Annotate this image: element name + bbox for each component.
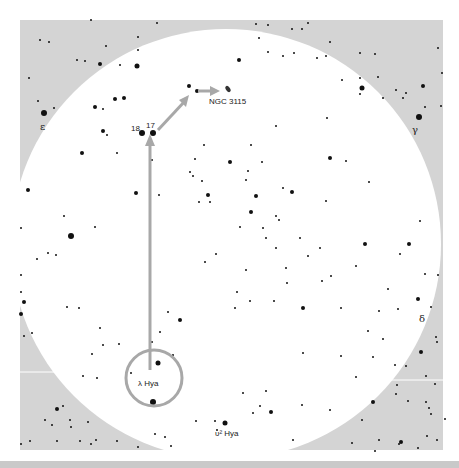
star <box>105 45 107 47</box>
star <box>340 355 342 357</box>
star <box>275 215 277 217</box>
star <box>417 447 419 449</box>
star <box>252 412 254 414</box>
star <box>301 306 305 310</box>
star <box>39 39 41 41</box>
star <box>329 41 331 43</box>
star <box>325 200 327 202</box>
star <box>426 435 428 437</box>
star <box>135 64 140 69</box>
star <box>170 445 172 447</box>
star <box>237 58 241 62</box>
star <box>316 57 318 59</box>
star <box>378 439 380 441</box>
star <box>319 247 321 249</box>
star <box>359 77 361 79</box>
star <box>387 288 389 290</box>
star <box>137 446 139 448</box>
star <box>302 352 304 354</box>
star <box>351 442 353 444</box>
star <box>47 252 49 254</box>
label-lambda-hya: λ Hya <box>138 379 159 388</box>
star <box>80 151 84 155</box>
star <box>371 400 375 404</box>
star <box>69 419 71 421</box>
star <box>101 129 105 133</box>
star <box>340 307 342 309</box>
star <box>55 254 57 256</box>
star <box>23 335 25 337</box>
star <box>363 242 367 246</box>
star <box>258 37 260 39</box>
star <box>359 93 361 95</box>
star <box>164 436 166 438</box>
star <box>328 156 332 160</box>
star <box>137 49 139 51</box>
star <box>421 84 425 88</box>
star <box>407 400 409 402</box>
star <box>285 267 287 269</box>
star <box>209 201 211 203</box>
star <box>267 24 269 26</box>
star <box>20 443 22 445</box>
star <box>299 237 301 239</box>
star <box>37 100 39 102</box>
star <box>436 439 438 441</box>
star <box>247 170 249 172</box>
star <box>377 76 379 78</box>
star <box>98 62 102 66</box>
star <box>440 105 442 107</box>
star <box>405 365 407 367</box>
star <box>189 171 191 173</box>
star <box>441 72 443 74</box>
star <box>399 440 403 444</box>
star <box>397 308 399 310</box>
label-star-17: 17 <box>146 121 155 130</box>
star <box>374 450 376 452</box>
star <box>394 364 396 366</box>
star <box>99 327 101 329</box>
star <box>150 399 156 405</box>
star <box>137 36 139 38</box>
star <box>203 144 205 146</box>
bottom-band <box>0 461 459 468</box>
star <box>130 372 132 374</box>
star <box>437 274 439 276</box>
star <box>156 361 161 366</box>
star <box>254 194 258 198</box>
star <box>259 405 261 407</box>
star <box>278 219 280 221</box>
star <box>355 265 357 267</box>
star-chart: NGC 3115 17 18 λ Hya υ² Hya ε γ δ <box>0 0 459 468</box>
star <box>249 210 253 214</box>
star <box>360 86 365 91</box>
star <box>250 144 252 146</box>
star <box>19 312 23 316</box>
star <box>90 443 92 445</box>
star <box>374 53 376 55</box>
star <box>122 96 126 100</box>
star <box>48 41 50 43</box>
star <box>255 23 257 25</box>
star <box>273 300 275 302</box>
star <box>382 338 384 340</box>
star <box>106 134 108 136</box>
star <box>150 130 156 136</box>
star <box>51 424 53 426</box>
star <box>94 226 96 228</box>
star <box>236 291 238 293</box>
star <box>178 318 182 322</box>
star <box>90 19 92 21</box>
star <box>156 22 158 24</box>
label-gamma: γ <box>412 124 418 135</box>
star <box>307 255 309 257</box>
star <box>167 311 169 313</box>
star <box>267 51 269 53</box>
star <box>444 418 446 420</box>
star <box>405 92 407 94</box>
star <box>62 405 64 407</box>
star <box>228 160 232 164</box>
star <box>291 28 293 30</box>
star <box>436 341 438 343</box>
star <box>396 384 398 386</box>
